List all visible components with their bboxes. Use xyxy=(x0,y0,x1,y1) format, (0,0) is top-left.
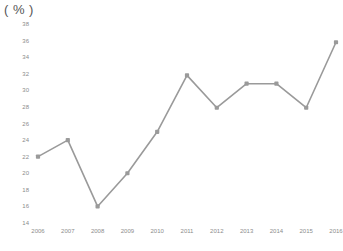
x-tick-label: 2009 xyxy=(121,228,134,234)
y-tick-label: 20 xyxy=(22,170,29,176)
data-point-marker xyxy=(36,155,40,159)
data-point-marker xyxy=(185,73,189,77)
y-tick-label: 38 xyxy=(22,21,29,27)
data-point-marker xyxy=(334,40,338,44)
y-tick-label: 18 xyxy=(22,187,29,193)
data-point-marker xyxy=(155,130,159,134)
y-axis-unit-label: ( % ) xyxy=(4,2,34,17)
y-tick-label: 16 xyxy=(22,203,29,209)
data-point-marker xyxy=(245,82,249,86)
data-point-marker xyxy=(274,82,278,86)
x-tick-label: 2008 xyxy=(91,228,104,234)
data-point-marker xyxy=(304,106,308,110)
series-line xyxy=(38,42,336,206)
x-tick-label: 2014 xyxy=(270,228,283,234)
data-point-marker xyxy=(215,106,219,110)
series-line-group xyxy=(38,24,336,223)
x-tick-label: 2012 xyxy=(210,228,223,234)
y-tick-label: 36 xyxy=(22,38,29,44)
x-tick-label: 2006 xyxy=(31,228,44,234)
x-axis: 2006200720082009201020112012201320142015… xyxy=(38,228,336,242)
x-tick-label: 2013 xyxy=(240,228,253,234)
data-point-marker xyxy=(96,204,100,208)
y-tick-label: 14 xyxy=(22,220,29,226)
x-tick-label: 2010 xyxy=(151,228,164,234)
plot-area xyxy=(38,24,336,223)
y-tick-label: 28 xyxy=(22,104,29,110)
x-tick-label: 2011 xyxy=(181,228,194,234)
y-tick-label: 26 xyxy=(22,121,29,127)
x-tick-label: 2016 xyxy=(329,228,342,234)
x-tick-label: 2007 xyxy=(61,228,74,234)
y-tick-label: 24 xyxy=(22,137,29,143)
y-tick-label: 32 xyxy=(22,71,29,77)
y-tick-label: 30 xyxy=(22,87,29,93)
data-point-marker xyxy=(125,171,129,175)
x-tick-label: 2015 xyxy=(300,228,313,234)
y-tick-label: 34 xyxy=(22,54,29,60)
y-tick-label: 22 xyxy=(22,154,29,160)
y-axis: 38363432302826242220181614 xyxy=(0,24,34,223)
data-point-marker xyxy=(66,138,70,142)
